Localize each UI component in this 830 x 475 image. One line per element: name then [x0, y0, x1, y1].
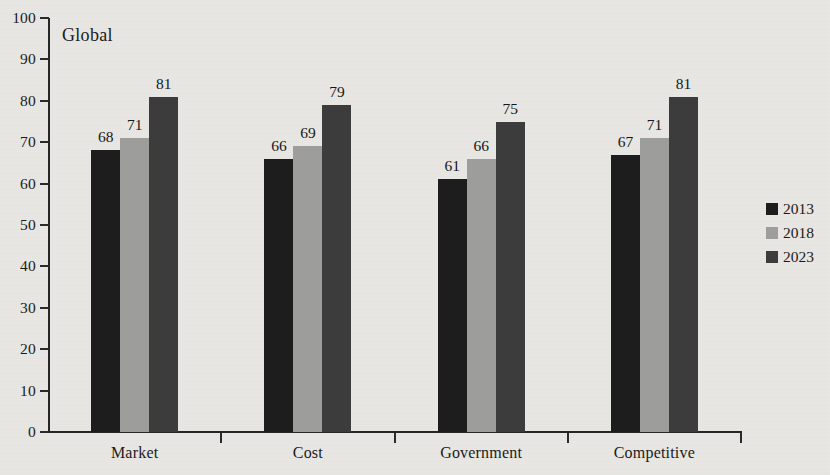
x-axis-tick	[567, 433, 569, 443]
y-axis-tick-label: 0	[0, 424, 36, 440]
y-axis-tick-label: 90	[0, 51, 36, 67]
bar-chart: Global 0102030405060708090100 6871816669…	[0, 0, 830, 475]
x-axis-tick	[740, 433, 742, 443]
legend-item-2018: 2018	[766, 221, 830, 245]
legend-item-label: 2013	[783, 201, 814, 217]
bar-government-2018	[467, 159, 496, 432]
plot-area: 687181666979616675677181	[48, 18, 741, 432]
legend-swatch-icon	[766, 227, 778, 239]
x-axis-label-cost: Cost	[221, 444, 394, 462]
legend-item-label: 2018	[783, 225, 814, 241]
bar-market-2018	[120, 138, 149, 432]
y-axis-tick-label: 10	[0, 383, 36, 399]
legend-swatch-icon	[766, 251, 778, 263]
chart-legend: 201320182023	[766, 197, 830, 269]
legend-item-2023: 2023	[766, 245, 830, 269]
x-axis-tick	[394, 433, 396, 443]
x-axis-tick	[220, 433, 222, 443]
y-axis-tick-label: 30	[0, 300, 36, 316]
legend-swatch-icon	[766, 203, 778, 215]
y-axis-tick-label: 60	[0, 176, 36, 192]
bar-market-2013	[91, 150, 120, 432]
bar-competitive-2018	[640, 138, 669, 432]
bar-competitive-2013	[611, 155, 640, 432]
x-axis-label-market: Market	[48, 444, 221, 462]
bar-cost-2013	[264, 159, 293, 432]
bar-market-2023	[149, 97, 178, 432]
y-axis-tick-label: 70	[0, 134, 36, 150]
bar-competitive-2023	[669, 97, 698, 432]
y-axis-tick-label: 40	[0, 258, 36, 274]
bar-value-label: 81	[659, 76, 708, 92]
y-axis-tick-label: 20	[0, 341, 36, 357]
legend-item-label: 2023	[783, 249, 814, 265]
legend-item-2013: 2013	[766, 197, 830, 221]
x-axis-label-competitive: Competitive	[568, 444, 741, 462]
bar-cost-2023	[322, 105, 351, 432]
bar-government-2023	[496, 122, 525, 433]
bar-government-2013	[438, 179, 467, 432]
y-axis-tick-label: 100	[0, 10, 36, 26]
x-axis-label-government: Government	[395, 444, 568, 462]
bar-cost-2018	[293, 146, 322, 432]
bar-value-label: 79	[312, 84, 361, 100]
bar-value-label: 81	[139, 76, 188, 92]
y-axis-tick-label: 80	[0, 93, 36, 109]
y-axis-tick-label: 50	[0, 217, 36, 233]
bar-value-label: 75	[486, 101, 535, 117]
